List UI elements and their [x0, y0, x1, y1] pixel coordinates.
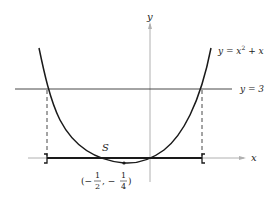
vertex-point	[122, 161, 125, 164]
horizontal-line-y3: y = 3	[15, 84, 264, 94]
svg-text:): )	[128, 176, 132, 186]
svg-text:, −: , −	[102, 176, 115, 186]
y-axis: y	[146, 11, 153, 182]
svg-text:(−: (−	[81, 176, 92, 186]
horizontal-line-label: y = 3	[239, 84, 264, 94]
svg-text:1: 1	[95, 171, 100, 180]
x-axis-arrow-icon	[239, 156, 246, 160]
svg-text:4: 4	[121, 182, 126, 191]
y-axis-arrow-icon	[148, 22, 152, 29]
x-axis-label: x	[251, 152, 257, 163]
curve-label: y = x2 + x	[217, 44, 264, 56]
y-axis-label: y	[146, 11, 153, 22]
parabola-curve	[39, 48, 211, 163]
svg-text:1: 1	[121, 171, 126, 180]
region-label: S	[102, 142, 109, 153]
diagram-canvas: y x y = 3 S y = x2 + x (− 1 2 , − 1 4 )	[0, 0, 276, 201]
vertex-label: (− 1 2 , − 1 4 )	[81, 171, 132, 191]
solution-interval: S	[44, 142, 205, 163]
svg-text:2: 2	[95, 182, 100, 191]
